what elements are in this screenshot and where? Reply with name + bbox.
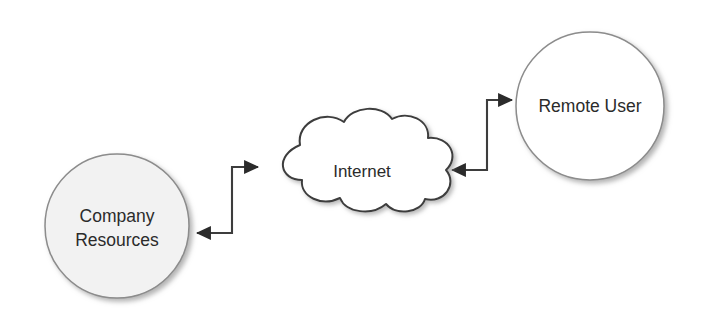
node-company-resources[interactable]: Company Resources [45, 154, 189, 298]
connector-company-internet-forward-arrow [197, 167, 258, 233]
company-resources-circle [45, 154, 189, 298]
node-internet-cloud[interactable]: Internet [283, 109, 453, 212]
internet-cloud-shape [283, 109, 453, 212]
remote-user-label: Remote User [538, 96, 641, 116]
connector-internet-remote[interactable] [452, 100, 512, 170]
internet-label: Internet [333, 162, 391, 181]
connector-company-internet[interactable] [197, 167, 258, 233]
diagram-svg-canvas: Company Resources Internet Remote User [0, 0, 702, 330]
network-diagram: Company Resources Internet Remote User [0, 0, 702, 330]
node-remote-user[interactable]: Remote User [516, 32, 664, 180]
company-resources-label-line1: Company [80, 206, 155, 226]
company-resources-label-line2: Resources [75, 230, 159, 250]
connector-internet-remote-forward-arrow [452, 100, 512, 170]
